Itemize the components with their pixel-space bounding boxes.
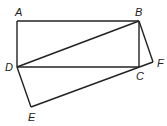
label-E: E [28, 111, 36, 123]
geometry-diagram: A B C D E F [0, 0, 167, 126]
label-F: F [157, 57, 165, 69]
segment-BF [139, 21, 153, 62]
segment-DB [17, 21, 139, 67]
label-A: A [14, 6, 22, 18]
label-D: D [5, 61, 13, 73]
label-B: B [135, 6, 142, 18]
segment-ED [17, 67, 31, 107]
segment-FE [31, 62, 153, 107]
label-C: C [136, 70, 144, 82]
